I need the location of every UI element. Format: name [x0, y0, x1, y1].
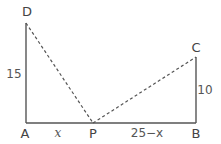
segment-PC — [93, 57, 196, 123]
length-BC: 10 — [197, 83, 212, 97]
length-PB: 25−x — [131, 126, 163, 140]
length-AD: 15 — [6, 67, 21, 81]
label-C: C — [191, 40, 200, 55]
label-D: D — [22, 4, 32, 19]
label-P: P — [89, 126, 97, 141]
geometry-diagram: D A P B C 15 10 x 25−x — [0, 0, 221, 144]
length-AP: x — [55, 126, 62, 140]
label-A: A — [21, 126, 30, 141]
segment-DP — [26, 23, 93, 123]
label-B: B — [192, 126, 201, 141]
